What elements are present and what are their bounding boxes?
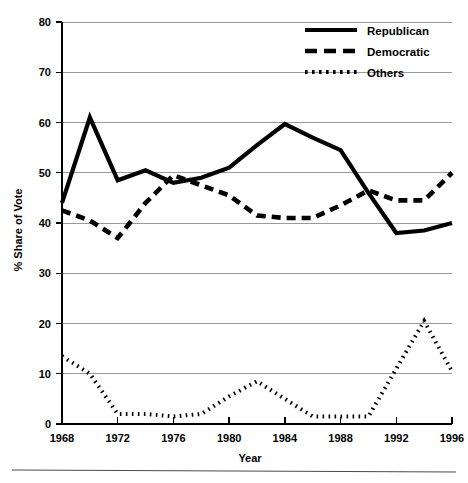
- x-tick-label-1988: 1988: [328, 432, 352, 444]
- x-axis-title: Year: [238, 452, 262, 464]
- x-tick-label-1980: 1980: [217, 432, 241, 444]
- y-tick-label-70: 70: [39, 66, 51, 78]
- bottom-divider: [12, 470, 456, 472]
- x-tick-label-1996: 1996: [440, 432, 464, 444]
- y-tick-label-80: 80: [39, 16, 51, 28]
- y-tick-label-0: 0: [45, 418, 51, 430]
- x-tick-label-1992: 1992: [384, 432, 408, 444]
- y-tick-label-30: 30: [39, 267, 51, 279]
- y-tick-label-10: 10: [39, 368, 51, 380]
- x-tick-label-1972: 1972: [105, 432, 129, 444]
- y-tick-label-40: 40: [39, 217, 51, 229]
- y-tick-label-50: 50: [39, 167, 51, 179]
- data-series-group: [62, 117, 452, 416]
- legend-label-republican: Republican: [367, 25, 429, 37]
- y-tick-labels-group: 01020304050607080: [39, 16, 51, 430]
- y-tick-label-60: 60: [39, 117, 51, 129]
- x-tick-labels-group: 19681972197619801984198819921996: [50, 432, 464, 444]
- legend: RepublicanDemocraticOthers: [305, 25, 430, 79]
- x-tick-label-1968: 1968: [50, 432, 74, 444]
- figure-container: 01020304050607080 1968197219761980198419…: [0, 0, 468, 483]
- x-tick-label-1976: 1976: [161, 432, 185, 444]
- line-chart: 01020304050607080 1968197219761980198419…: [0, 0, 468, 483]
- series-line-others: [62, 321, 452, 416]
- y-axis-title: % Share of Vote: [12, 189, 24, 272]
- legend-label-democratic: Democratic: [367, 46, 430, 58]
- legend-label-others: Others: [367, 67, 404, 79]
- y-tick-label-20: 20: [39, 318, 51, 330]
- x-tick-label-1984: 1984: [273, 432, 298, 444]
